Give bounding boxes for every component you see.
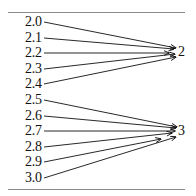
arrow-2-5 [44, 100, 177, 127]
arrow-2-6 [44, 116, 176, 128]
arrow-2-0 [44, 22, 176, 48]
arrow-3-0 [44, 137, 176, 178]
arrow-2-8 [44, 133, 172, 147]
arrow-2-9 [44, 139, 161, 162]
mapping-arrows [0, 0, 196, 196]
